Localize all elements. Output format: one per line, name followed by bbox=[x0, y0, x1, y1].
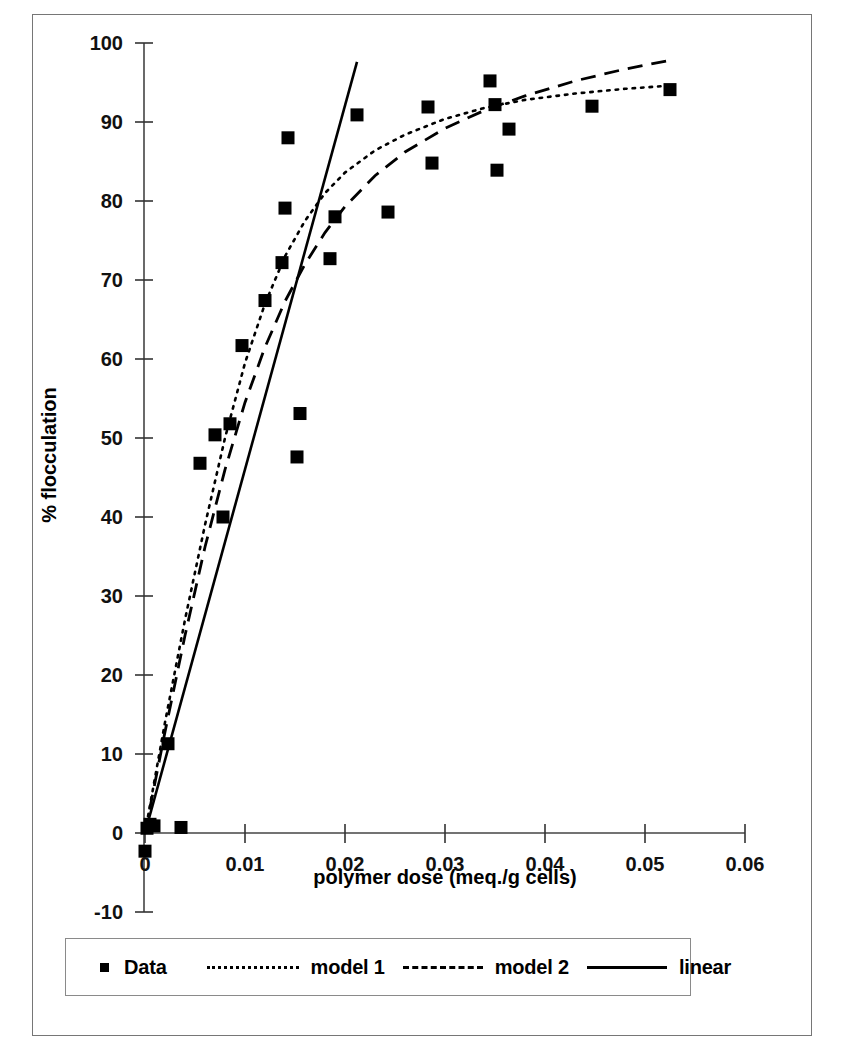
series-line-linear bbox=[145, 62, 357, 833]
data-point-marker bbox=[209, 428, 222, 441]
legend-label: Data bbox=[124, 956, 167, 979]
data-point-marker bbox=[324, 252, 337, 265]
data-point-marker bbox=[422, 100, 435, 113]
y-tick-label: 70 bbox=[101, 269, 123, 291]
y-tick-label: 80 bbox=[101, 190, 123, 212]
y-axis-title: % flocculation bbox=[38, 387, 60, 523]
legend-entry-model-2[interactable]: model 2 bbox=[403, 956, 569, 979]
flocculation-scatter-chart: -10010203040506070809010000.010.020.030.… bbox=[0, 0, 846, 1048]
legend-label: model 1 bbox=[311, 956, 385, 979]
caption-strip bbox=[36, 1030, 826, 1048]
y-tick-label: 100 bbox=[90, 32, 123, 54]
data-point-marker bbox=[194, 457, 207, 470]
y-tick-label: 60 bbox=[101, 348, 123, 370]
data-point-marker bbox=[491, 164, 504, 177]
data-point-marker bbox=[586, 100, 599, 113]
data-point-marker bbox=[382, 206, 395, 219]
series-line-model-1 bbox=[145, 86, 670, 833]
data-point-marker bbox=[282, 131, 295, 144]
y-tick-label: 30 bbox=[101, 585, 123, 607]
x-tick-label: 0 bbox=[139, 853, 150, 875]
data-point-marker bbox=[236, 339, 249, 352]
data-point-marker bbox=[175, 821, 188, 834]
legend-swatch-solid-line-icon bbox=[587, 958, 667, 976]
y-tick-label: 90 bbox=[101, 111, 123, 133]
y-tick-label: 20 bbox=[101, 664, 123, 686]
y-tick-label: -10 bbox=[94, 901, 123, 923]
chart-legend: Datamodel 1model 2linear bbox=[65, 938, 691, 996]
data-point-marker bbox=[217, 511, 230, 524]
data-point-marker bbox=[294, 407, 307, 420]
legend-swatch-dotted-line-icon bbox=[207, 958, 299, 976]
x-tick-label: 0.06 bbox=[726, 853, 765, 875]
legend-swatch-square-marker-icon bbox=[100, 958, 112, 976]
axes-group bbox=[135, 43, 745, 912]
data-series-group bbox=[139, 60, 677, 857]
x-tick-label: 0.01 bbox=[226, 853, 265, 875]
legend-swatch-dashed-line-icon bbox=[403, 958, 483, 976]
x-tick-label: 0.05 bbox=[626, 853, 665, 875]
legend-entry-data[interactable]: Data bbox=[100, 956, 167, 979]
legend-label: model 2 bbox=[495, 956, 569, 979]
y-tick-label: 10 bbox=[101, 743, 123, 765]
data-point-marker bbox=[279, 202, 292, 215]
legend-label: linear bbox=[679, 956, 731, 979]
data-point-marker bbox=[351, 108, 364, 121]
data-point-marker bbox=[426, 157, 439, 170]
y-tick-label: 50 bbox=[101, 427, 123, 449]
plot-canvas: -10010203040506070809010000.010.020.030.… bbox=[0, 0, 846, 1048]
x-axis-title: polymer dose (meq./g cells) bbox=[313, 866, 576, 888]
legend-entry-model-1[interactable]: model 1 bbox=[207, 956, 385, 979]
data-point-marker bbox=[503, 123, 516, 136]
y-tick-label: 0 bbox=[112, 822, 123, 844]
legend-entry-linear[interactable]: linear bbox=[587, 956, 731, 979]
data-point-marker bbox=[484, 74, 497, 87]
data-point-marker bbox=[291, 450, 304, 463]
y-tick-label: 40 bbox=[101, 506, 123, 528]
legend-entries: Datamodel 1model 2linear bbox=[66, 939, 690, 995]
